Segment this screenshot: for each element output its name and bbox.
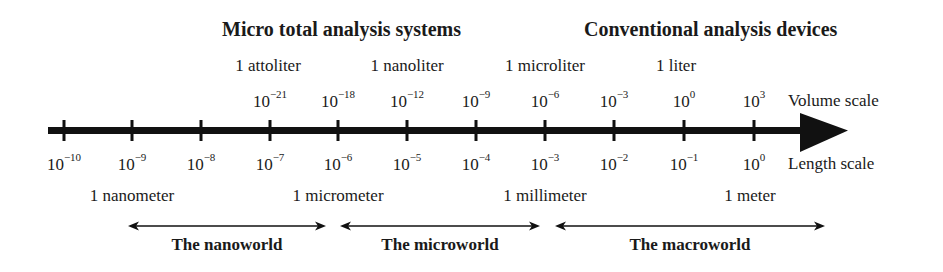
tick-mark [337,120,340,141]
volume-tick-label: 10−18 [321,92,355,112]
length-tick-label: 100 [743,155,766,175]
tick-mark [613,120,616,141]
volume-tick-label: 10−3 [600,92,629,112]
heading-conventional-devices: Conventional analysis devices [584,18,837,41]
tick-mark [753,120,756,141]
tick-mark [131,120,134,141]
length-tick-label: 10−2 [600,155,629,175]
length-tick-label: 10−8 [187,155,216,175]
tick-mark [544,120,547,141]
tick-mark [200,120,203,141]
length-tick-label: 10−3 [531,155,560,175]
volume-unit-label: 1 nanoliter [370,56,443,76]
length-tick-label: 10−5 [393,155,422,175]
length-tick-label: 10−7 [256,155,285,175]
length-tick-label: 10−4 [462,155,491,175]
world-range-arrows [128,222,825,231]
volume-tick-label: 103 [743,92,766,112]
tick-mark [63,120,66,141]
tick-mark [475,120,478,141]
volume-unit-label: 1 attoliter [235,56,301,76]
world-label: The nanoworld [172,235,283,255]
volume-unit-label: 1 microliter [505,56,585,76]
volume-tick-label: 10−6 [531,92,560,112]
tick-mark [683,120,686,141]
length-scale-label: Length scale [788,154,874,174]
volume-tick-label: 10−21 [253,92,287,112]
length-unit-label: 1 millimeter [503,186,587,206]
length-tick-label: 10−6 [324,155,353,175]
length-tick-label: 10−9 [118,155,147,175]
tick-mark [406,120,409,141]
volume-tick-label: 10−9 [462,92,491,112]
volume-unit-label: 1 liter [656,56,696,76]
world-label: The macroworld [629,235,750,255]
volume-tick-label: 100 [673,92,696,112]
length-unit-label: 1 meter [724,186,775,206]
world-label: The microworld [381,235,498,255]
length-unit-label: 1 micrometer [292,186,383,206]
length-tick-label: 10−1 [670,155,699,175]
length-unit-label: 1 nanometer [90,186,175,206]
heading-micro-tas: Micro total analysis systems [222,18,461,41]
main-axis-arrow [48,113,848,152]
volume-scale-label: Volume scale [788,91,879,111]
length-tick-label: 10−10 [47,155,81,175]
volume-tick-label: 10−12 [390,92,424,112]
tick-mark [269,120,272,141]
